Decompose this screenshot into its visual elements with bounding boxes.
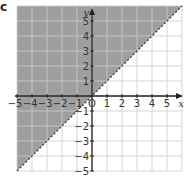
- x-tick-label: 1: [104, 98, 110, 109]
- y-tick-label: 1: [83, 76, 89, 87]
- x-tick-label: −2: [53, 98, 68, 109]
- y-tick-label: 2: [83, 61, 89, 72]
- y-axis-label: y: [82, 7, 89, 18]
- x-tick-label: −4: [23, 98, 38, 109]
- y-tick-label: −5: [74, 166, 89, 177]
- y-tick-label: −3: [74, 136, 89, 147]
- x-axis-label: x: [178, 98, 184, 109]
- x-tick-label: 2: [119, 98, 125, 109]
- x-tick-label: −3: [38, 98, 53, 109]
- y-tick-label: −1: [74, 106, 89, 117]
- x-tick-label: −5: [8, 98, 23, 109]
- x-tick-label: 3: [134, 98, 140, 109]
- x-tick-label: O: [88, 98, 96, 109]
- x-tick-label: 5: [164, 98, 170, 109]
- y-tick-label: −4: [74, 151, 89, 162]
- y-tick-label: 4: [83, 31, 89, 42]
- y-tick-label: −2: [74, 121, 89, 132]
- y-tick-label: 3: [83, 46, 89, 57]
- x-tick-label: 4: [149, 98, 155, 109]
- inequality-graph: −5−4−3−2−1O12345−5−4−3−2−112345xy: [0, 0, 193, 187]
